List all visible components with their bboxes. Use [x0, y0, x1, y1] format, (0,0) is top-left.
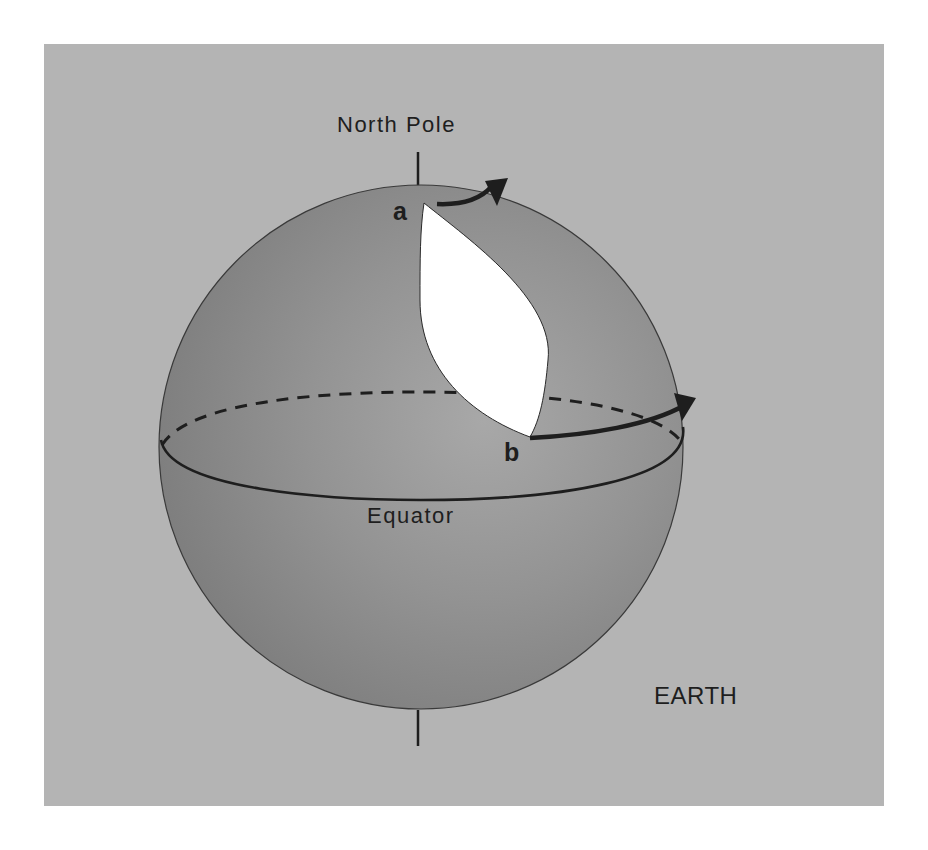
- point-a-label: a: [393, 197, 408, 225]
- earth-rotation-diagram: North Pole a b Equator EARTH: [0, 0, 928, 850]
- north-pole-label: North Pole: [337, 112, 456, 137]
- equator-label: Equator: [367, 503, 455, 528]
- point-b-label: b: [504, 438, 519, 466]
- earth-label: EARTH: [654, 682, 737, 709]
